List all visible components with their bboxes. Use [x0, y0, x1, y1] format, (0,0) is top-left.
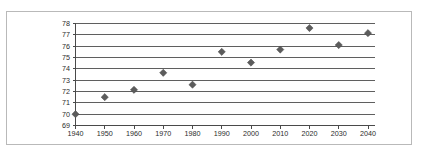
scatter-chart: 69707172737475767778 1940195019601970198… [0, 0, 432, 154]
data-point-1980: 1980: 72.6 [189, 81, 196, 88]
data-point-2010: 2010: 75.7 [277, 46, 284, 53]
y-tick-label-72: 72 [62, 87, 70, 96]
data-point-2020: 2020: 77.6 [306, 24, 313, 31]
data-markers: 1940: 701950: 71.51960: 72.151970: 73.65… [72, 24, 372, 117]
x-tick-label-1980: 1980 [185, 129, 201, 138]
data-point-1940: 1940: 70 [72, 111, 79, 118]
y-axis [73, 24, 76, 126]
data-point-1960: 1960: 72.15 [130, 86, 137, 93]
y-tick-label-73: 73 [62, 76, 70, 85]
y-tick-label-75: 75 [62, 53, 70, 62]
y-tick-label-77: 77 [62, 30, 70, 39]
x-tick-label-1960: 1960 [126, 129, 142, 138]
y-tick-label-76: 76 [62, 42, 70, 51]
x-tick-label-2040: 2040 [360, 129, 376, 138]
data-point-2030: 2030: 76.1 [335, 41, 342, 48]
y-tick-label-71: 71 [62, 98, 70, 107]
x-tick-label-1970: 1970 [155, 129, 171, 138]
x-tick-label-1940: 1940 [68, 129, 84, 138]
data-point-2040: 2040: 77.15 [364, 30, 371, 37]
x-tick-labels: 1940195019601970198019902000201020202030… [68, 129, 377, 138]
y-tick-label-78: 78 [62, 19, 70, 28]
x-tick-label-2010: 2010 [272, 129, 288, 138]
y-tick-label-70: 70 [62, 110, 70, 119]
x-tick-label-1990: 1990 [214, 129, 230, 138]
x-tick-label-2030: 2030 [331, 129, 347, 138]
data-point-1970: 1970: 73.65 [160, 69, 167, 76]
chart-plot-area: 69707172737475767778 1940195019601970198… [0, 0, 432, 154]
y-tick-label-74: 74 [62, 64, 70, 73]
data-point-1950: 1950: 71.5 [101, 94, 108, 101]
data-point-1990: 1990: 75.5 [218, 48, 225, 55]
x-tick-label-2000: 2000 [243, 129, 259, 138]
x-tick-label-1950: 1950 [97, 129, 113, 138]
gridlines [76, 24, 375, 115]
data-point-2000: 2000: 74.55 [247, 59, 254, 66]
y-tick-labels: 69707172737475767778 [62, 19, 70, 130]
x-tick-label-2020: 2020 [302, 129, 318, 138]
